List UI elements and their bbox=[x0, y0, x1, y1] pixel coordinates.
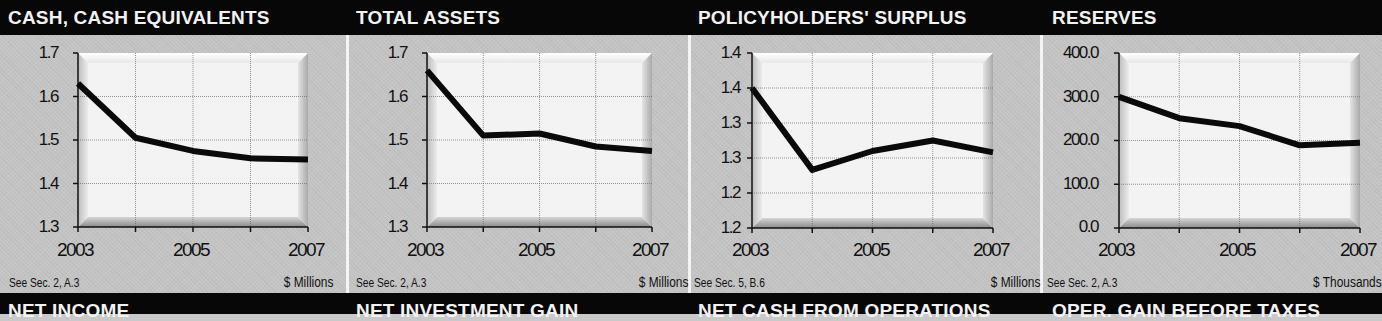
y-tick-label: 1.4 bbox=[694, 43, 740, 63]
y-tick-label: 1.7 bbox=[361, 43, 407, 63]
plot-area bbox=[747, 53, 993, 233]
y-tick-label: 1.3 bbox=[694, 148, 740, 168]
y-tick-label: 1.3 bbox=[361, 217, 407, 237]
plot-area bbox=[1114, 53, 1360, 233]
x-tick-label: 2005 bbox=[173, 239, 209, 261]
source-note: See Sec. 2, A.3 bbox=[9, 276, 79, 290]
x-tick-label: 2005 bbox=[1219, 239, 1255, 261]
x-tick-label: 2003 bbox=[57, 239, 93, 261]
unit-label: $ Millions bbox=[990, 274, 1040, 290]
x-tick-label: 2005 bbox=[853, 239, 889, 261]
x-tick-label: 2003 bbox=[732, 239, 768, 261]
x-tick-label: 2007 bbox=[632, 239, 668, 261]
x-tick-label: 2007 bbox=[973, 239, 1009, 261]
y-tick-label: 1.2 bbox=[694, 183, 740, 203]
unit-label: $ Millions bbox=[638, 274, 688, 290]
unit-label: $ Thousands bbox=[1313, 274, 1382, 290]
y-tick-label: 100.0 bbox=[1052, 174, 1098, 194]
chart-title-net-income: NET INCOME bbox=[8, 300, 129, 321]
source-note: See Sec. 2, A.3 bbox=[1047, 276, 1117, 290]
plot-area bbox=[73, 53, 308, 232]
y-tick-label: 200.0 bbox=[1052, 130, 1098, 150]
y-tick-label: 1.4 bbox=[361, 174, 407, 194]
y-tick-label: 1.5 bbox=[12, 130, 58, 150]
unit-label: $ Millions bbox=[283, 274, 333, 290]
y-tick-label: 1.7 bbox=[12, 43, 58, 63]
y-tick-label: 1.3 bbox=[694, 113, 740, 133]
x-tick-label: 2003 bbox=[1098, 239, 1134, 261]
y-tick-label: 400.0 bbox=[1052, 43, 1098, 63]
source-note: See Sec. 2, A.3 bbox=[356, 276, 426, 290]
plot-area bbox=[422, 53, 652, 232]
x-tick-label: 2007 bbox=[288, 239, 324, 261]
y-tick-label: 0.0 bbox=[1052, 217, 1098, 237]
y-tick-label: 1.6 bbox=[361, 87, 407, 107]
y-tick-label: 1.4 bbox=[694, 78, 740, 98]
y-tick-label: 1.6 bbox=[12, 87, 58, 107]
chart-title-net-cash-operations: NET CASH FROM OPERATIONS bbox=[698, 300, 991, 321]
y-tick-label: 1.3 bbox=[12, 217, 58, 237]
chart-title-net-investment-gain: NET INVESTMENT GAIN bbox=[356, 300, 578, 321]
chart-title-oper-gain: OPER. GAIN BEFORE TAXES bbox=[1052, 300, 1320, 321]
x-tick-label: 2003 bbox=[407, 239, 443, 261]
y-tick-label: 1.2 bbox=[694, 218, 740, 238]
y-tick-label: 1.5 bbox=[361, 130, 407, 150]
source-note: See Sec. 5, B.6 bbox=[694, 276, 765, 290]
y-tick-label: 1.4 bbox=[12, 174, 58, 194]
x-tick-label: 2007 bbox=[1340, 239, 1376, 261]
y-tick-label: 300.0 bbox=[1052, 87, 1098, 107]
x-tick-label: 2005 bbox=[518, 239, 554, 261]
